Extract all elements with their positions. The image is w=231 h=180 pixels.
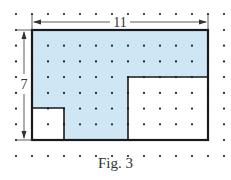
figure-diagram: 11 7 <box>0 0 231 180</box>
width-label: 11 <box>113 15 126 30</box>
arrow-left-icon <box>33 20 41 25</box>
arrow-down-icon <box>22 131 27 139</box>
cutout-bottom-right <box>128 77 208 140</box>
height-label: 7 <box>21 77 28 92</box>
arrow-right-icon <box>199 20 207 25</box>
figure-caption: Fig. 3 <box>0 155 231 172</box>
arrow-up-icon <box>22 31 27 39</box>
